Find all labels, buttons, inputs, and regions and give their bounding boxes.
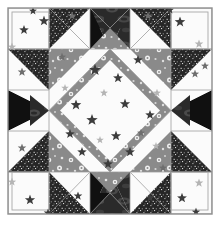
quilt-block-svg <box>0 0 220 227</box>
quilt-block-image <box>0 0 220 227</box>
hourglass-middle-left <box>8 90 49 131</box>
hourglass-middle-right <box>171 90 212 131</box>
